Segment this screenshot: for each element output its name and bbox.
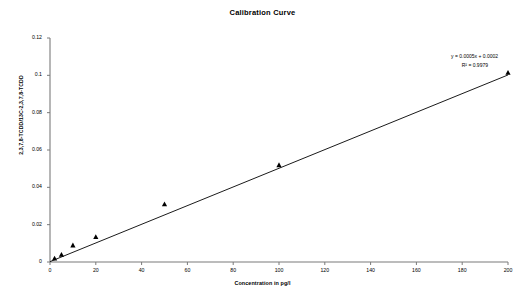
data-point-marker [276,162,281,167]
plot-area [0,0,525,301]
data-point-marker [162,202,167,207]
data-point-marker [52,256,57,261]
data-point-marker [59,252,64,257]
data-point-marker [70,243,75,248]
trendline [50,75,508,262]
data-point-marker [93,234,98,239]
calibration-curve-chart: Calibration Curve 2,3,7,8-TCDD/13C-2,3,7… [0,0,525,301]
data-point-marker [505,70,510,75]
